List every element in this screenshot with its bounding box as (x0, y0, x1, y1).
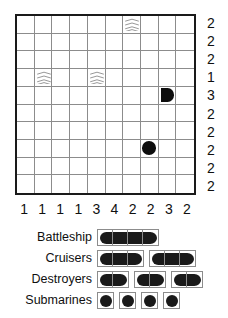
grid-cell-r4-c4[interactable] (70, 69, 88, 87)
grid-cell-r10-c10[interactable] (176, 175, 194, 193)
grid-cell-r2-c6[interactable] (106, 34, 124, 52)
grid-cell-r5-c1[interactable] (17, 87, 35, 105)
grid-cell-r10-c3[interactable] (52, 175, 70, 193)
grid-cell-r3-c5[interactable] (88, 51, 106, 69)
grid-cell-r3-c1[interactable] (17, 51, 35, 69)
grid-cell-r3-c4[interactable] (70, 51, 88, 69)
battleship-grid[interactable] (15, 14, 196, 195)
fleet-ship-destroyers-2[interactable] (134, 271, 166, 288)
grid-cell-r1-c8[interactable] (141, 16, 159, 34)
grid-cell-r4-c5[interactable] (88, 69, 106, 87)
grid-cell-r4-c7[interactable] (123, 69, 141, 87)
fleet-ship-destroyers-3[interactable] (171, 271, 203, 288)
grid-cell-r6-c1[interactable] (17, 105, 35, 123)
grid-cell-r5-c8[interactable] (141, 87, 159, 105)
grid-cell-r6-c5[interactable] (88, 105, 106, 123)
grid-cell-r10-c2[interactable] (35, 175, 53, 193)
grid-cell-r2-c4[interactable] (70, 34, 88, 52)
grid-cell-r6-c8[interactable] (141, 105, 159, 123)
grid-cell-r1-c7[interactable] (123, 16, 141, 34)
grid-cell-r9-c5[interactable] (88, 158, 106, 176)
grid-cell-r4-c2[interactable] (35, 69, 53, 87)
grid-cell-r2-c3[interactable] (52, 34, 70, 52)
grid-cell-r1-c9[interactable] (159, 16, 177, 34)
fleet-ship-submarines-3[interactable] (141, 292, 158, 309)
fleet-ship-destroyers-1[interactable] (97, 271, 129, 288)
fleet-ship-cruisers-1[interactable] (97, 250, 144, 267)
grid-cell-r6-c10[interactable] (176, 105, 194, 123)
grid-cell-r2-c10[interactable] (176, 34, 194, 52)
grid-cell-r6-c6[interactable] (106, 105, 124, 123)
grid-cell-r4-c6[interactable] (106, 69, 124, 87)
grid-cell-r2-c5[interactable] (88, 34, 106, 52)
grid-cell-r10-c5[interactable] (88, 175, 106, 193)
fleet-ship-cruisers-2[interactable] (149, 250, 196, 267)
grid-cell-r5-c5[interactable] (88, 87, 106, 105)
grid-cell-r8-c9[interactable] (159, 140, 177, 158)
grid-cell-r10-c4[interactable] (70, 175, 88, 193)
grid-cell-r4-c9[interactable] (159, 69, 177, 87)
grid-cell-r6-c7[interactable] (123, 105, 141, 123)
grid-cell-r5-c3[interactable] (52, 87, 70, 105)
grid-cell-r7-c7[interactable] (123, 122, 141, 140)
grid-cell-r8-c10[interactable] (176, 140, 194, 158)
grid-cell-r4-c3[interactable] (52, 69, 70, 87)
grid-cell-r1-c1[interactable] (17, 16, 35, 34)
grid-cell-r5-c2[interactable] (35, 87, 53, 105)
grid-cell-r6-c9[interactable] (159, 105, 177, 123)
grid-cell-r5-c7[interactable] (123, 87, 141, 105)
grid-cell-r8-c7[interactable] (123, 140, 141, 158)
grid-cell-r7-c4[interactable] (70, 122, 88, 140)
grid-cell-r9-c6[interactable] (106, 158, 124, 176)
grid-cell-r5-c6[interactable] (106, 87, 124, 105)
grid-cell-r1-c4[interactable] (70, 16, 88, 34)
grid-cell-r1-c2[interactable] (35, 16, 53, 34)
grid-cell-r6-c2[interactable] (35, 105, 53, 123)
grid-cell-r7-c10[interactable] (176, 122, 194, 140)
grid-cell-r10-c6[interactable] (106, 175, 124, 193)
grid-cell-r2-c7[interactable] (123, 34, 141, 52)
grid-cell-r10-c7[interactable] (123, 175, 141, 193)
grid-cell-r3-c2[interactable] (35, 51, 53, 69)
grid-cell-r10-c1[interactable] (17, 175, 35, 193)
grid-cell-r6-c3[interactable] (52, 105, 70, 123)
grid-cell-r3-c8[interactable] (141, 51, 159, 69)
fleet-ship-submarines-2[interactable] (119, 292, 136, 309)
grid-cell-r2-c8[interactable] (141, 34, 159, 52)
grid-cell-r4-c10[interactable] (176, 69, 194, 87)
grid-cell-r10-c8[interactable] (141, 175, 159, 193)
grid-cell-r3-c10[interactable] (176, 51, 194, 69)
grid-cell-r3-c6[interactable] (106, 51, 124, 69)
grid-cell-r8-c6[interactable] (106, 140, 124, 158)
grid-cell-r9-c4[interactable] (70, 158, 88, 176)
grid-cell-r3-c7[interactable] (123, 51, 141, 69)
grid-cell-r7-c2[interactable] (35, 122, 53, 140)
grid-cell-r4-c8[interactable] (141, 69, 159, 87)
grid-cell-r8-c1[interactable] (17, 140, 35, 158)
grid-cell-r7-c6[interactable] (106, 122, 124, 140)
grid-cell-r8-c8[interactable] (141, 140, 159, 158)
grid-cell-r2-c1[interactable] (17, 34, 35, 52)
grid-cell-r10-c9[interactable] (159, 175, 177, 193)
grid-cell-r3-c9[interactable] (159, 51, 177, 69)
grid-cell-r1-c3[interactable] (52, 16, 70, 34)
grid-cell-r7-c3[interactable] (52, 122, 70, 140)
grid-cell-r2-c9[interactable] (159, 34, 177, 52)
grid-cell-r8-c5[interactable] (88, 140, 106, 158)
grid-cell-r9-c7[interactable] (123, 158, 141, 176)
fleet-ship-submarines-1[interactable] (97, 292, 114, 309)
grid-cell-r9-c8[interactable] (141, 158, 159, 176)
grid-cell-r8-c3[interactable] (52, 140, 70, 158)
grid-cell-r4-c1[interactable] (17, 69, 35, 87)
grid-cell-r3-c3[interactable] (52, 51, 70, 69)
grid-cell-r9-c1[interactable] (17, 158, 35, 176)
grid-cell-r9-c3[interactable] (52, 158, 70, 176)
grid-cell-r7-c5[interactable] (88, 122, 106, 140)
grid-cell-r8-c4[interactable] (70, 140, 88, 158)
grid-cell-r5-c10[interactable] (176, 87, 194, 105)
fleet-ship-submarines-4[interactable] (163, 292, 180, 309)
grid-cell-r5-c9[interactable] (159, 87, 177, 105)
grid-cell-r9-c9[interactable] (159, 158, 177, 176)
grid-cell-r1-c10[interactable] (176, 16, 194, 34)
grid-cell-r7-c9[interactable] (159, 122, 177, 140)
